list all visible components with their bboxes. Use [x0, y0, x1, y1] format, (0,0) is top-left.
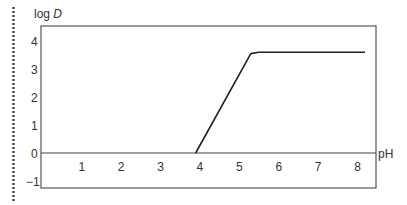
x-tick-label: 2: [118, 160, 125, 174]
x-tick-label: 5: [236, 160, 243, 174]
y-tick-label: 0: [31, 147, 38, 161]
x-tick-label: 6: [275, 160, 282, 174]
logd-curve: [196, 52, 365, 153]
plot-frame: [41, 26, 376, 188]
x-tick-label: 4: [197, 160, 204, 174]
chart: log D pH 43210−1 12345678: [0, 0, 407, 205]
y-tick-label: 3: [31, 63, 38, 77]
y-tick-label: 2: [31, 91, 38, 105]
x-tick-label: 8: [354, 160, 361, 174]
y-tick-label: −1: [26, 175, 40, 189]
x-tick-labels: 12345678: [78, 160, 361, 174]
y-axis-label: log D: [34, 7, 62, 21]
y-tick-label: 1: [31, 119, 38, 133]
x-tick-label: 3: [157, 160, 164, 174]
x-axis-label: pH: [378, 147, 393, 161]
x-tick-label: 1: [78, 160, 85, 174]
y-tick-label: 4: [31, 35, 38, 49]
x-tick-label: 7: [315, 160, 322, 174]
y-tick-labels: 43210−1: [26, 35, 40, 189]
